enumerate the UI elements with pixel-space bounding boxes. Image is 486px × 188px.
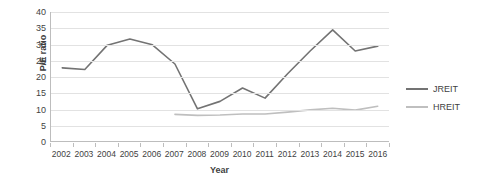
x-axis-tickmark [208,143,209,147]
gridline [51,61,389,62]
gridline [51,77,389,78]
legend-label: JREIT [433,85,458,94]
x-axis-tickmark [299,143,300,147]
x-axis-tickmark [73,143,74,147]
y-axis-tick-label: 40 [24,8,46,17]
x-axis-tick-label: 2015 [346,149,365,160]
x-axis-tick-label: 2014 [323,149,342,160]
x-axis-tick-labels: 2002200320042005200620072008200920102011… [50,149,389,161]
legend-line-icon [406,106,428,108]
y-axis-tick-label: 30 [24,40,46,49]
x-axis-tickmark [163,143,164,147]
x-axis-tickmark [253,143,254,147]
legend-item[interactable]: JREIT [406,80,482,98]
x-axis-tickmark [140,143,141,147]
x-axis-tickmark [321,143,322,147]
series-line-jreit [62,30,377,109]
y-axis-tick-label: 15 [24,89,46,98]
x-axis-tick-label: 2012 [278,149,297,160]
x-axis-tickmark [95,143,96,147]
y-axis-tick-label: 35 [24,24,46,33]
y-axis-tick-label: 0 [24,138,46,147]
x-axis-tickmark [118,143,119,147]
x-axis-tickmark [389,143,390,147]
x-axis-tick-label: 2013 [300,149,319,160]
x-axis-tick-label: 2004 [97,149,116,160]
x-axis-title: Year [50,165,389,175]
series-line-hreit [175,106,378,115]
gridline [51,45,389,46]
y-axis-tick-label: 10 [24,105,46,114]
legend-item[interactable]: HREIT [406,98,482,116]
x-axis-tick-label: 2016 [368,149,387,160]
y-axis-tick-label: 20 [24,73,46,82]
x-axis-tick-label: 2002 [52,149,71,160]
gridline [51,28,389,29]
y-axis-tick-labels: 4035302520151050 [24,7,46,143]
x-axis-tick-label: 2007 [165,149,184,160]
x-axis-tickmark [231,143,232,147]
x-axis-tick-label: 2010 [233,149,252,160]
x-axis-tick-label: 2006 [142,149,161,160]
y-axis-tick-label: 25 [24,56,46,65]
gridline [51,126,389,127]
plot-area [50,12,389,142]
legend-line-icon [406,88,428,90]
x-axis-tick-label: 2003 [74,149,93,160]
y-axis-tick-label: 5 [24,121,46,130]
chart-legend: JREITHREIT [406,80,482,116]
x-axis-tickmark [276,143,277,147]
x-axis-tickmark [186,143,187,147]
x-axis-tick-label: 2011 [256,149,274,160]
gridline [51,93,389,94]
x-axis-tickmark [50,143,51,147]
x-axis-tick-label: 2008 [187,149,206,160]
legend-label: HREIT [433,103,460,112]
gridline [51,110,389,111]
gridline [51,12,389,13]
x-axis-tick-label: 2005 [120,149,139,160]
x-axis-tickmark [366,143,367,147]
x-axis-tick-label: 2009 [210,149,229,160]
chart-container: P/E ratio 4035302520151050 2002200320042… [0,0,486,188]
x-axis-tickmark [344,143,345,147]
